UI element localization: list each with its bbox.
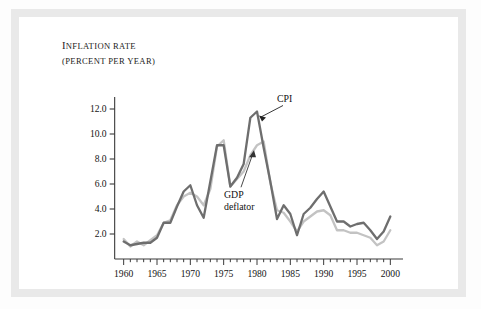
series-group: [124, 112, 391, 247]
inflation-rate-chart: INFLATION RATE (PERCENT PER YEAR) 2.04.0…: [19, 17, 458, 289]
chart-svg: [97, 75, 407, 275]
series-label-cpi-text: CPI: [277, 93, 292, 104]
y-tick-label: 6.0: [73, 178, 107, 189]
series-label-gdp-deflator-line2: deflator: [224, 201, 254, 213]
series-line-cpi: [124, 112, 391, 246]
y-tick-label: 8.0: [73, 153, 107, 164]
y-tick-label: 12.0: [73, 103, 107, 114]
y-tick-label: 2.0: [73, 228, 107, 239]
leader-line-cpi: [260, 106, 283, 118]
plot-area: 2.04.06.08.010.012.0 1960196519701975198…: [97, 75, 407, 259]
series-label-cpi: CPI: [277, 93, 292, 105]
series-label-gdp-deflator-line1: GDP: [224, 189, 254, 201]
chart-axis-title-line2: (PERCENT PER YEAR): [62, 50, 155, 68]
series-label-gdp-deflator: GDP deflator: [224, 189, 254, 213]
series-line-gdp-deflator: [124, 140, 391, 246]
y-tick-label: 4.0: [73, 203, 107, 214]
leader-line-gdp-deflator: [241, 153, 253, 187]
screenshot-page: INFLATION RATE (PERCENT PER YEAR) 2.04.0…: [0, 0, 481, 309]
y-tick-label: 10.0: [73, 128, 107, 139]
axis-subtitle-smallcaps: (PERCENT PER YEAR): [62, 56, 155, 66]
x-tick-label: 2000: [370, 268, 410, 279]
